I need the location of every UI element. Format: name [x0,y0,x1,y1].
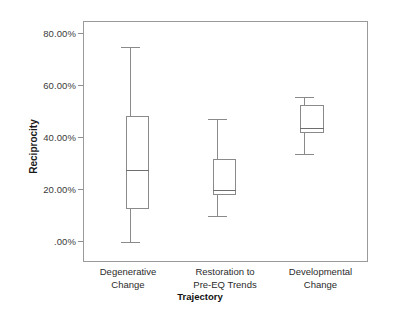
whisker-lower-cap-2 [208,216,227,217]
x-category-line-2a: Restoration to [175,266,275,279]
whisker-upper-cap-2 [208,119,227,120]
median-line-1 [126,170,149,171]
x-category-line-1a: Degenerative [83,266,173,279]
whisker-lower-cap-3 [295,154,314,155]
whisker-upper-line-2 [217,119,218,159]
whisker-lower-line-2 [217,195,218,216]
whisker-upper-line-1 [130,47,131,116]
median-line-3 [300,128,324,129]
y-tick-label-80: 80.00% [43,28,76,39]
x-category-label-developmental-change: Developmental Change [273,266,368,291]
x-category-line-3a: Developmental [273,266,368,279]
y-tick-label-60: 60.00% [43,80,76,91]
median-line-2 [213,190,236,191]
y-axis-title: Reciprocity [28,92,39,202]
x-category-label-restoration-to-pre-eq-trends: Restoration to Pre-EQ Trends [175,266,275,291]
whisker-lower-line-1 [130,209,131,242]
x-category-line-3b: Change [273,279,368,292]
x-category-line-1b: Change [83,279,173,292]
whisker-lower-cap-1 [121,242,140,243]
whisker-upper-cap-1 [121,47,140,48]
y-tick-label-0: .00% [54,236,76,247]
whisker-upper-cap-3 [295,97,314,98]
plot-area [83,21,368,262]
x-axis-title: Trajectory [0,291,400,302]
whisker-lower-line-3 [304,133,305,154]
y-tick-label-40: 40.00% [43,132,76,143]
x-category-line-2b: Pre-EQ Trends [175,279,275,292]
x-category-label-degenerative-change: Degenerative Change [83,266,173,291]
boxplot-chart: 80.00% 60.00% 40.00% 20.00% .00% Recipro… [0,0,400,324]
whisker-upper-line-3 [304,97,305,105]
box-1 [126,116,149,209]
y-tick-label-20: 20.00% [43,184,76,195]
